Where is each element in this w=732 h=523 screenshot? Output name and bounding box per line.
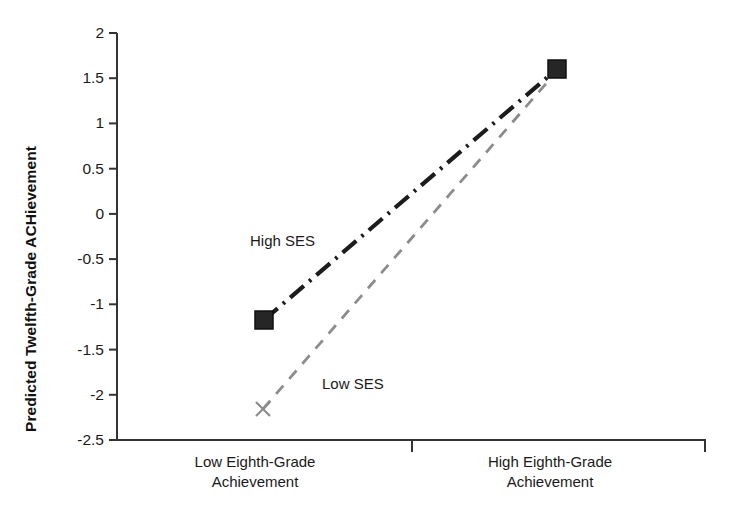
y-tick-label: 1.5 [42, 70, 104, 86]
chart-plot-area [0, 0, 732, 523]
y-tick-label: -2 [42, 387, 104, 403]
y-tick-label: 2 [42, 25, 104, 41]
y-tick-label: -2.5 [42, 432, 104, 448]
y-axis-tick-labels: 2 1.5 1 0.5 0 -0.5 -1 -1.5 -2 -2.5 [42, 0, 104, 523]
x-category-label-low: Low Eighth-Grade Achievement [155, 452, 355, 493]
y-tick-label: -0.5 [42, 251, 104, 267]
y-tick-label: 0 [42, 206, 104, 222]
x-category-label-high: High Eighth-Grade Achievement [450, 452, 650, 493]
chart-figure: Predicted Twelfth-Grade ACHievement 2 1.… [0, 0, 732, 523]
marker-high-ses-left [255, 311, 273, 329]
y-tick-label: 0.5 [42, 161, 104, 177]
series-annotation-low-ses: Low SES [322, 375, 384, 392]
y-tick-label: -1.5 [42, 342, 104, 358]
marker-high-ses-right [548, 60, 566, 78]
series-annotation-high-ses: High SES [250, 232, 315, 249]
y-tick-label: 1 [42, 115, 104, 131]
y-tick-label: -1 [42, 296, 104, 312]
